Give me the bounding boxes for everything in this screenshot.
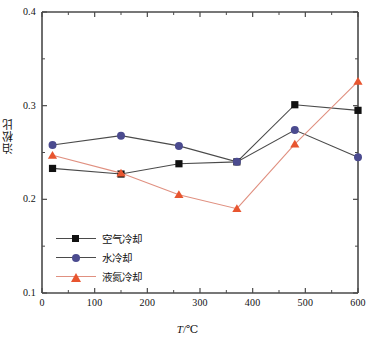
legend-label: 水冷却 bbox=[102, 250, 132, 265]
chart-figure: 0.10.20.30.4 0100200300400500600 泊松比 T/℃… bbox=[0, 0, 375, 346]
plot-canvas bbox=[0, 0, 375, 346]
y-tick-label: 0.4 bbox=[8, 6, 36, 17]
legend-key bbox=[56, 232, 96, 246]
x-axis-unit: /℃ bbox=[183, 323, 198, 335]
legend-item[interactable]: 液氮冷却 bbox=[56, 267, 176, 286]
legend-key bbox=[56, 270, 96, 284]
legend-label: 液氮冷却 bbox=[102, 269, 142, 284]
x-tick-label: 0 bbox=[25, 297, 59, 308]
x-tick-label: 100 bbox=[78, 297, 112, 308]
x-tick-label: 500 bbox=[288, 297, 322, 308]
y-tick-label: 0.3 bbox=[8, 100, 36, 111]
legend-marker-triangle-icon bbox=[70, 271, 81, 282]
legend-key bbox=[56, 251, 96, 265]
data-series-layer bbox=[48, 77, 363, 212]
x-tick-label: 200 bbox=[130, 297, 164, 308]
legend-marker-square-icon bbox=[70, 233, 81, 244]
legend-item[interactable]: 空气冷却 bbox=[56, 229, 176, 248]
legend-item[interactable]: 水冷却 bbox=[56, 248, 176, 267]
x-axis-title: T/℃ bbox=[0, 323, 375, 336]
legend-marker-circle-icon bbox=[70, 252, 81, 263]
x-tick-label: 300 bbox=[183, 297, 217, 308]
x-tick-label: 400 bbox=[236, 297, 270, 308]
chart-legend: 空气冷却水冷却液氮冷却 bbox=[56, 229, 176, 286]
x-tick-label: 600 bbox=[341, 297, 375, 308]
legend-label: 空气冷却 bbox=[102, 231, 142, 246]
y-tick-label: 0.2 bbox=[8, 193, 36, 204]
y-axis-title: 泊松比 bbox=[1, 118, 17, 154]
